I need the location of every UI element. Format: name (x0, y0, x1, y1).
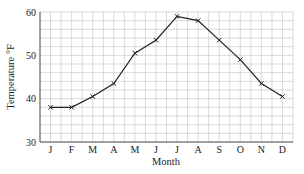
x-tick-label: M (88, 144, 97, 155)
line-chart: 30405060 JFMAMJJASOND Month Temperature … (0, 0, 304, 174)
x-tick-label: A (110, 144, 118, 155)
x-tick-label: O (237, 144, 244, 155)
x-tick-label: J (175, 144, 179, 155)
y-tick-labels: 30405060 (26, 7, 36, 148)
y-axis-title: Temperature °F (5, 44, 16, 110)
x-tick-label: N (258, 144, 265, 155)
x-axis-title: Month (152, 156, 181, 167)
x-tick-label: S (216, 144, 222, 155)
y-tick-label: 30 (26, 137, 36, 148)
x-tick-label: F (69, 144, 75, 155)
y-tick-label: 40 (26, 93, 36, 104)
x-tick-label: M (130, 144, 139, 155)
x-tick-label: J (154, 144, 158, 155)
x-tick-label: A (195, 144, 203, 155)
y-tick-label: 50 (26, 50, 36, 61)
y-tick-label: 60 (26, 7, 36, 18)
x-tick-label: D (279, 144, 286, 155)
x-tick-label: J (49, 144, 53, 155)
x-tick-labels: JFMAMJJASOND (49, 144, 286, 155)
